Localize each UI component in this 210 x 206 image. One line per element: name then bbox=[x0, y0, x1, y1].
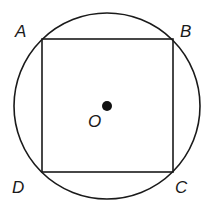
geometry-diagram: A B C D O bbox=[0, 0, 210, 206]
label-o: O bbox=[88, 112, 101, 131]
label-d: D bbox=[12, 178, 24, 197]
diagram-canvas: A B C D O bbox=[0, 0, 210, 206]
center-point-o bbox=[102, 101, 112, 111]
label-a: A bbox=[14, 22, 26, 41]
label-b: B bbox=[180, 22, 191, 41]
label-c: C bbox=[175, 178, 188, 197]
